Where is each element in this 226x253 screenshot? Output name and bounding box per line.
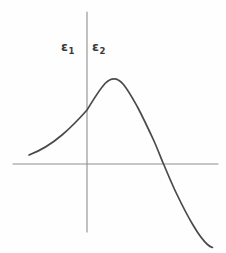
epsilon-2-label: ε2 <box>92 41 105 54</box>
epsilon-1-subscript: 1 <box>69 46 75 56</box>
resonance-curve-path <box>29 79 213 248</box>
plot-canvas <box>0 0 226 253</box>
epsilon-2-subscript: 2 <box>100 46 106 56</box>
epsilon-1-label: ε1 <box>61 41 74 54</box>
dielectric-function-figure: ε1 ε2 <box>0 0 226 253</box>
